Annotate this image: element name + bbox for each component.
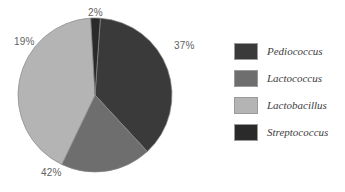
chart-legend: PediococcusLactococcusLactobacillusStrep… — [234, 42, 342, 142]
legend-label-lactobacillus: Lactobacillus — [267, 100, 327, 111]
legend-swatch-lactococcus — [234, 70, 258, 87]
pie-slice-group — [18, 18, 172, 172]
legend-item-lactobacillus: Lactobacillus — [234, 96, 342, 115]
legend-swatch-lactobacillus — [234, 97, 258, 114]
data-label-lactobacillus: 42% — [41, 168, 62, 178]
legend-label-pediococcus: Pediococcus — [267, 46, 323, 57]
legend-swatch-pediococcus — [234, 43, 258, 60]
legend-item-streptococcus: Streptococcus — [234, 123, 342, 142]
pie-chart-svg — [0, 0, 200, 192]
legend-swatch-streptococcus — [234, 124, 258, 141]
pie-chart-figure: 2% 19% 37% 42% PediococcusLactococcusLac… — [0, 0, 345, 192]
data-label-pediococcus: 37% — [174, 41, 195, 51]
legend-item-pediococcus: Pediococcus — [234, 42, 342, 61]
pie-chart-plot-area: 2% 19% 37% 42% — [0, 0, 200, 192]
legend-label-lactococcus: Lactococcus — [267, 73, 322, 84]
legend-item-lactococcus: Lactococcus — [234, 69, 342, 88]
legend-label-streptococcus: Streptococcus — [267, 127, 328, 138]
data-label-streptococcus: 2% — [88, 8, 103, 18]
data-label-lactococcus: 19% — [14, 37, 35, 47]
